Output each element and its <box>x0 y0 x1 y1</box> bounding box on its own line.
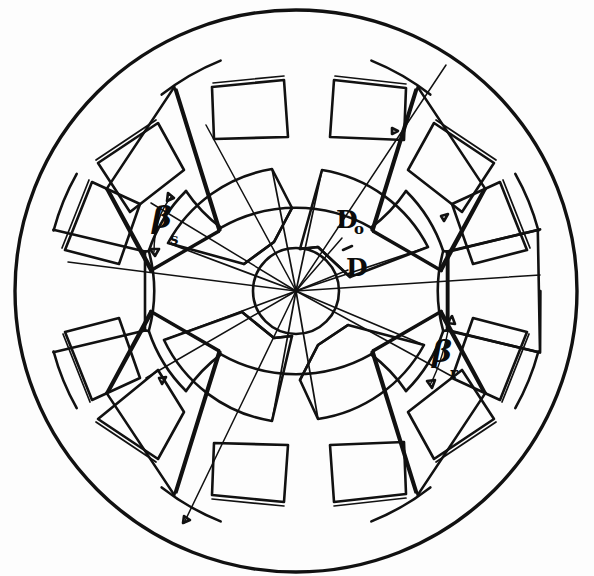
coil-side <box>62 180 140 264</box>
bore-diameter-label: D <box>346 253 368 282</box>
coil-side <box>452 180 530 264</box>
coil-side <box>96 370 184 462</box>
rotor-pole-arc-label: β <box>431 334 452 369</box>
dash-mark <box>343 246 352 250</box>
coil-side <box>212 76 288 139</box>
coil-side <box>408 370 496 462</box>
rotor-pole-arc-subscript: r <box>450 364 459 382</box>
srm-cross-section-diagram: D o D β s β r <box>0 0 594 576</box>
coil-side <box>452 318 529 402</box>
leader-tick <box>441 214 448 221</box>
coil-side <box>63 318 140 402</box>
coil-side <box>330 442 406 506</box>
leader-tick <box>392 128 398 134</box>
coil-side <box>212 443 288 506</box>
outer-diameter-subscript: o <box>354 220 364 238</box>
coil-side <box>408 120 496 212</box>
figure-canvas: D o D β s β r <box>0 0 594 576</box>
stator-pole-arc-subscript: s <box>170 230 178 248</box>
stator-pole-arc-label: β <box>151 200 172 235</box>
